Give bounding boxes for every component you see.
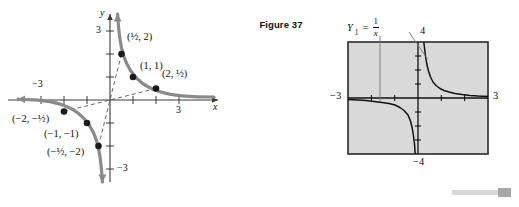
axes-group bbox=[8, 14, 218, 182]
horizontal-scrollbar[interactable] bbox=[452, 188, 511, 196]
curve-arrow-left bbox=[18, 96, 25, 104]
point-label-half-2: (½, 2) bbox=[127, 31, 152, 42]
hand-drawn-graph: x y −3 3 3 −3 (½, 2) (1, 1) (2, ½) (−2, … bbox=[0, 0, 245, 200]
point-1-1-dot bbox=[130, 74, 137, 81]
fraction-numerator: 1 bbox=[373, 17, 380, 26]
function-label-subscript: 1 bbox=[355, 28, 359, 37]
calculator-svg bbox=[330, 14, 515, 179]
calc-window-label-left: −3 bbox=[330, 90, 341, 101]
figure-stage: x y −3 3 3 −3 (½, 2) (1, 1) (2, ½) (−2, … bbox=[0, 0, 519, 207]
x-tick-label-negative-3: −3 bbox=[32, 78, 43, 89]
function-label: Y1 = 1 x bbox=[347, 17, 379, 38]
point-label-neg1-neg1: (−1, −1) bbox=[44, 128, 79, 139]
x-tick-label-positive-3: 3 bbox=[176, 104, 181, 115]
calc-window-label-right: 3 bbox=[493, 90, 498, 101]
y-tick-label-negative-3: −3 bbox=[117, 162, 128, 173]
calculator-screenshot: Y1 = 1 x 4 −4 −3 3 bbox=[330, 14, 515, 179]
curve-branch-positive bbox=[118, 14, 214, 97]
x-axis-label: x bbox=[213, 101, 217, 112]
fraction-denominator: x bbox=[373, 29, 379, 38]
curve-arrow-down bbox=[98, 175, 106, 183]
point-label-2-half: (2, ½) bbox=[162, 68, 187, 79]
curve-arrow-up bbox=[114, 14, 122, 22]
scrollbar-thumb[interactable] bbox=[498, 188, 511, 197]
figure-caption: Figure 37 bbox=[236, 19, 326, 30]
y-tick-label-positive-3: 3 bbox=[96, 24, 101, 35]
function-label-fraction: 1 x bbox=[373, 17, 380, 38]
y-axis-arrow bbox=[107, 14, 113, 20]
y-axis-label: y bbox=[100, 7, 104, 18]
point-neg2-neghalf-dot bbox=[61, 108, 68, 115]
point-neg1-neg1-dot bbox=[84, 120, 91, 127]
point-2-half-dot bbox=[153, 85, 160, 92]
function-label-y: Y bbox=[347, 22, 353, 33]
calc-window-label-top: 4 bbox=[420, 25, 425, 36]
point-label-1-1: (1, 1) bbox=[140, 60, 163, 71]
point-label-neg2-neghalf: (−2, −½) bbox=[12, 113, 49, 124]
function-label-equals: = bbox=[363, 22, 369, 33]
point-label-neghalf-neg2: (−½, −2) bbox=[47, 146, 84, 157]
curve-branch-negative bbox=[18, 99, 102, 182]
point-neghalf-neg2-dot bbox=[95, 143, 102, 150]
point-half-2-dot bbox=[118, 51, 125, 58]
calc-window-label-bottom: −4 bbox=[413, 156, 424, 167]
